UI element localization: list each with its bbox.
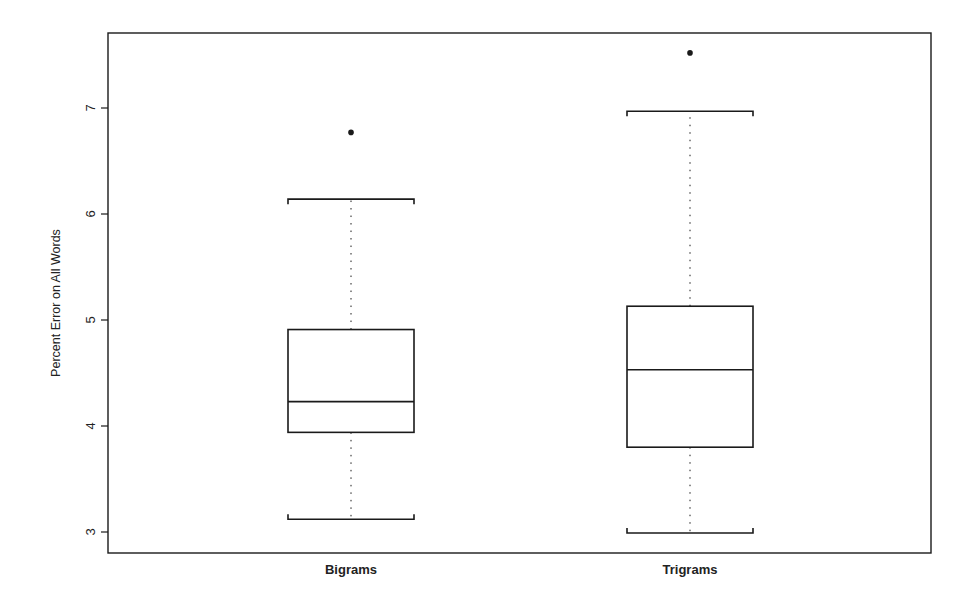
- x-category-label: Bigrams: [325, 562, 377, 577]
- boxplot-chart: 34567Percent Error on All Words BigramsT…: [0, 0, 977, 605]
- y-tick-label: 7: [83, 104, 98, 111]
- outlier-point: [687, 50, 693, 56]
- y-axis-title: Percent Error on All Words: [49, 229, 63, 377]
- y-tick-label: 4: [83, 422, 98, 429]
- y-tick-label: 6: [83, 210, 98, 217]
- plot-frame: [108, 33, 931, 553]
- box-trigrams: [627, 50, 753, 533]
- upper-whisker-cap: [627, 111, 753, 116]
- y-tick-label: 3: [83, 528, 98, 535]
- x-category-label: Trigrams: [663, 562, 718, 577]
- interquartile-box: [627, 306, 753, 447]
- box-bigrams: [288, 130, 414, 520]
- y-tick-label: 5: [83, 316, 98, 323]
- outlier-point: [348, 130, 354, 136]
- interquartile-box: [288, 330, 414, 433]
